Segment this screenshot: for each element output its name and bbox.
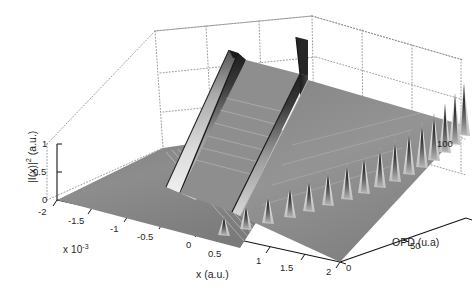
- y-tick-0: 0: [42, 194, 47, 205]
- x-axis-title: x (a.u.): [196, 268, 229, 280]
- opd-axis-title: OPD (u.a): [392, 236, 439, 248]
- x-tick-1-5: 1.5: [280, 262, 293, 273]
- x-tick--1-5: -1.5: [68, 215, 84, 226]
- x-tick--1: -1: [110, 223, 118, 234]
- opd-tick-100: 100: [437, 138, 453, 149]
- x-tick-2: 2: [326, 266, 331, 277]
- opd-tick-0: 0: [346, 262, 351, 273]
- surface-mesh: [57, 37, 470, 262]
- x-axis-multiplier: x 10-3: [63, 243, 89, 255]
- x-tick-0: 0: [186, 239, 191, 250]
- y-tick-1: 1: [42, 138, 47, 149]
- x-tick-1: 1: [256, 255, 261, 266]
- x-tick--0-5: -0.5: [137, 231, 153, 242]
- x-tick--2: -2: [38, 206, 46, 217]
- x-tick-0-5: 0.5: [208, 248, 221, 259]
- figure-3d-surface-plot: 1 0.5 0 |I(x)|2 (a.u.) -2 -1.5 -1 -0.5 0…: [0, 0, 474, 295]
- y-axis-title: |I(x)|2 (a.u.): [24, 102, 38, 212]
